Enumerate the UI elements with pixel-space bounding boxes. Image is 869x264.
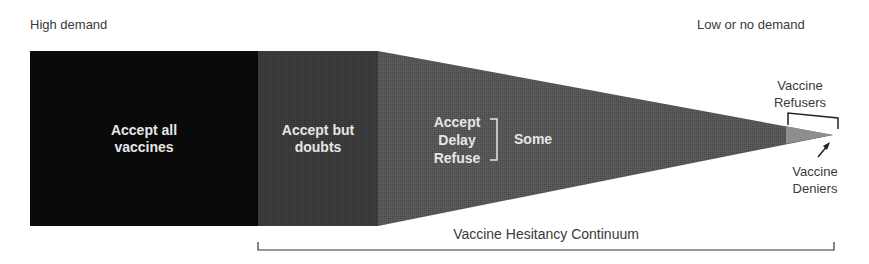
- vaccine-deniers-label: Vaccine Deniers: [780, 163, 850, 197]
- accept-line: Accept: [425, 113, 489, 131]
- accept-all-line1: Accept all: [30, 122, 258, 139]
- refusers-line1: Vaccine: [760, 77, 840, 94]
- some-label: Some: [514, 131, 552, 148]
- accept-all-label: Accept all vaccines: [30, 122, 258, 156]
- accept-but-doubts-label: Accept but doubts: [258, 122, 378, 156]
- vaccine-refusers-label: Vaccine Refusers: [760, 77, 840, 111]
- continuum-label: Vaccine Hesitancy Continuum: [258, 226, 834, 242]
- accept-but-doubts-line1: Accept but: [258, 122, 378, 139]
- accept-but-doubts-line2: doubts: [258, 139, 378, 156]
- accept-delay-refuse-label: Accept Delay Refuse: [425, 113, 489, 167]
- low-demand-label: Low or no demand: [697, 17, 805, 32]
- deniers-line1: Vaccine: [780, 163, 850, 180]
- high-demand-label: High demand: [30, 17, 107, 32]
- deniers-line2: Deniers: [780, 180, 850, 197]
- continuum-bracket: [258, 242, 834, 250]
- refusers-line2: Refusers: [760, 94, 840, 111]
- refusers-bracket: [788, 113, 838, 129]
- accept-all-line2: vaccines: [30, 139, 258, 156]
- delay-line: Delay: [425, 131, 489, 149]
- refuse-line: Refuse: [425, 149, 489, 167]
- segment-refusers-tip: [786, 126, 833, 143]
